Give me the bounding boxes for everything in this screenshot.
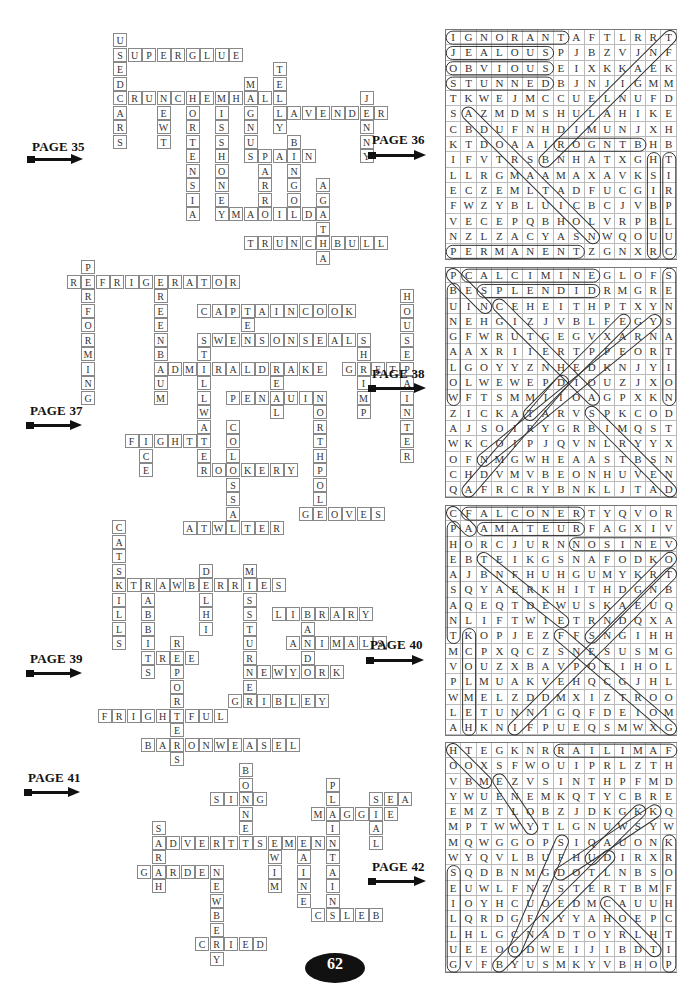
crossword-cell: E [272,738,286,752]
letter-cell: F [508,567,523,582]
letter-cell: Q [554,436,569,451]
crossword-cell: Y [273,120,287,134]
letter-cell: M [477,674,492,689]
letter-cell: E [661,789,676,804]
letter-cell: N [569,774,584,789]
crossword-cell: W [272,665,286,679]
letter-cell: F [508,758,523,773]
crossword-cell: R [210,937,224,951]
letter-cell: T [492,152,507,167]
letter-cell: W [477,329,492,344]
letter-cell: S [538,61,553,76]
letter-cell: K [600,360,615,375]
crossword-cell: R [128,91,142,105]
crossword-cell: T [316,222,330,236]
letter-cell: U [477,789,492,804]
page-label-40: PAGE 40 [370,637,423,653]
letter-cell: W [600,229,615,244]
letter-cell: P [446,268,461,283]
letter-cell: I [446,30,461,45]
letter-cell: Z [538,628,553,643]
crossword-cell: E [226,333,240,347]
letter-cell: N [631,537,646,552]
crossword-cell: N [313,391,327,405]
letter-cell: G [631,283,646,298]
letter-cell: H [523,299,538,314]
letter-cell: D [554,122,569,137]
letter-cell: R [569,521,584,536]
crossword-cell: P [226,391,240,405]
arrow-right-icon [368,383,426,393]
crossword-cell: E [313,362,327,376]
crossword-cell: R [243,651,257,665]
letter-cell: I [554,390,569,405]
letter-cell: E [446,183,461,198]
crossword-cell: S [152,821,166,835]
crossword-cell: L [374,236,388,250]
letter-cell: E [554,467,569,482]
letter-cell: G [600,268,615,283]
crossword-cell: I [81,362,95,376]
crossword-cell: U [345,236,359,250]
letter-cell: T [646,758,661,773]
letter-cell: T [477,819,492,834]
crossword-cell: U [273,236,287,250]
letter-cell: S [554,644,569,659]
letter-cell: I [661,168,676,183]
letter-cell: E [461,45,476,60]
crossword-cell: I [197,362,211,376]
letter-cell: A [508,137,523,152]
letter-cell: Z [492,659,507,674]
letter-cell: L [508,850,523,865]
letter-cell: Y [600,927,615,942]
letter-cell: A [585,452,600,467]
crossword-cell: I [299,391,313,405]
letter-cell: M [554,957,569,972]
letter-cell: T [585,582,600,597]
letter-cell: R [492,482,507,497]
crossword-cell: B [141,738,155,752]
crossword-cell: A [326,807,340,821]
crossword-cell: I [127,709,141,723]
letter-cell: H [646,927,661,942]
crossword-cell: B [185,578,199,592]
letter-cell: T [446,628,461,643]
letter-cell: N [538,506,553,521]
letter-cell: N [569,537,584,552]
crossword-cell: L [360,236,374,250]
crossword-cell: E [229,48,243,62]
letter-cell: B [615,942,630,957]
letter-cell: B [461,552,476,567]
letter-cell: H [461,467,476,482]
crossword-cell: I [270,304,284,318]
crossword-cell: R [170,738,184,752]
crossword-cell: E [257,665,271,679]
letter-cell: K [646,390,661,405]
letter-cell: B [446,283,461,298]
letter-cell: S [600,720,615,735]
crossword-cell: E [170,651,184,665]
letter-cell: N [538,360,553,375]
crossword-cell: P [142,48,156,62]
letter-cell: N [569,268,584,283]
letter-cell: U [600,375,615,390]
letter-cell: R [631,690,646,705]
crossword-cell: N [239,792,253,806]
crossword-cell: R [170,694,184,708]
letter-cell: A [646,743,661,758]
crossword-cell: F [98,709,112,723]
letter-cell: N [585,76,600,91]
letter-cell: J [631,375,646,390]
letter-cell: A [661,613,676,628]
letter-cell: I [569,61,584,76]
letter-cell: U [538,850,553,865]
letter-cell: W [446,850,461,865]
letter-cell: K [585,482,600,497]
letter-cell: I [569,835,584,850]
letter-cell: Q [523,214,538,229]
letter-cell: D [477,467,492,482]
letter-cell: S [569,229,584,244]
crossword-cell: N [326,894,340,908]
letter-cell: W [523,758,538,773]
crossword-cell: F [125,434,139,448]
